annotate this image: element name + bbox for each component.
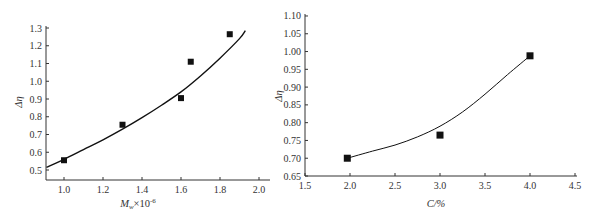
y-tick-label: 0.90 [284, 82, 302, 93]
fit-curve [347, 56, 530, 158]
y-axis-label: Δη [13, 96, 24, 108]
y-tick-label: 1.1 [30, 58, 43, 69]
data-point-square-marker [188, 59, 194, 65]
x-tick-label: 1.8 [214, 184, 227, 195]
data-point-square-marker [120, 122, 126, 128]
y-tick-label: 1.2 [30, 40, 43, 51]
y-tick-label: 1.05 [284, 28, 302, 39]
x-tick-label: 4.5 [569, 180, 582, 191]
y-tick-label: 0.9 [30, 94, 43, 105]
x-tick-label: 1.5 [299, 180, 312, 191]
x-tick-label: 1.2 [97, 184, 110, 195]
y-tick-label: 0.85 [284, 99, 302, 110]
x-tick-label: 2.5 [389, 180, 402, 191]
chart-viscosity-vs-concentration: 0.650.700.750.800.850.900.951.001.051.10… [273, 10, 581, 209]
data-point-square-marker [227, 31, 233, 37]
y-tick-label: 1.0 [30, 76, 43, 87]
x-tick-label: 4.0 [524, 180, 537, 191]
x-tick-label: 3.5 [479, 180, 492, 191]
y-tick-label: 1.00 [284, 46, 302, 57]
y-axis-label: Δη [273, 90, 284, 102]
x-axis-label: Mw×10-6 [119, 197, 156, 211]
x-tick-label: 2.0 [344, 180, 357, 191]
y-tick-label: 0.5 [30, 165, 43, 176]
x-tick-label: 1.6 [175, 184, 188, 195]
x-tick-label: 3.0 [434, 180, 447, 191]
fit-curve [46, 31, 245, 168]
y-tick-label: 0.75 [284, 135, 302, 146]
x-axis-label: C/% [427, 198, 446, 209]
x-tick-label: 1.0 [58, 184, 71, 195]
x-tick-label: 2.0 [253, 184, 266, 195]
y-tick-label: 0.8 [30, 111, 43, 122]
y-tick-label: 0.70 [284, 153, 302, 164]
figure: 0.50.60.70.80.91.01.11.21.31.01.21.41.61… [0, 0, 591, 215]
x-tick-label: 1.4 [136, 184, 149, 195]
chart-viscosity-vs-molecular-weight: 0.50.60.70.80.91.01.11.21.31.01.21.41.61… [13, 23, 270, 212]
y-tick-label: 0.7 [30, 129, 43, 140]
y-tick-label: 0.80 [284, 117, 302, 128]
y-tick-label: 1.10 [284, 10, 302, 21]
y-tick-label: 1.3 [30, 23, 43, 34]
y-tick-label: 0.6 [30, 147, 43, 158]
data-point-square-marker [437, 132, 444, 139]
y-tick-label: 0.95 [284, 64, 302, 75]
data-point-square-marker [178, 95, 184, 101]
